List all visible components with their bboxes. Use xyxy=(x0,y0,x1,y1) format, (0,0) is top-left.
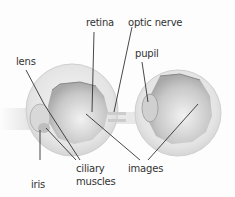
label-retina: retina xyxy=(86,17,114,28)
label-muscles: muscles xyxy=(76,176,116,187)
label-pupil: pupil xyxy=(135,48,159,59)
label-iris: iris xyxy=(31,179,45,190)
right-eyeball xyxy=(135,70,221,156)
label-optic-nerve: optic nerve xyxy=(128,17,182,28)
label-ciliary: ciliary xyxy=(76,163,105,174)
right-lens xyxy=(142,94,158,122)
label-images: images xyxy=(128,163,163,174)
label-lens: lens xyxy=(16,56,36,67)
eye-diagram xyxy=(0,0,235,197)
